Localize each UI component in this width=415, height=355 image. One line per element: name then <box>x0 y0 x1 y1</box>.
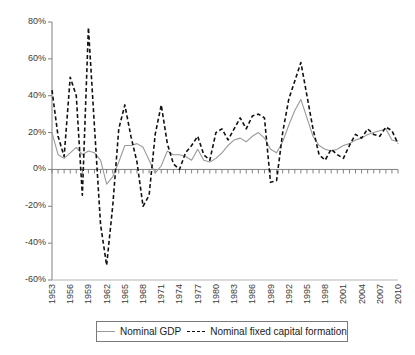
y-axis-tick-label: 40% <box>6 90 46 100</box>
series-layer <box>52 28 398 266</box>
x-axis-tick-label: 2010 <box>393 284 403 304</box>
x-axis-tick-label: 2004 <box>357 284 367 304</box>
y-axis-tick-label: 60% <box>6 53 46 63</box>
series-line-1 <box>52 28 398 266</box>
chart-container: 80%60%40%20%0%-20%-40%-60% 1953195619591… <box>0 0 415 355</box>
y-axis-tick-label: -20% <box>6 200 46 210</box>
y-axis-tick-label: -60% <box>6 274 46 284</box>
x-axis-tick-label: 1986 <box>247 284 257 304</box>
dashed-line-swatch-icon <box>187 328 205 336</box>
legend-item-nominal-gdp: Nominal GDP <box>97 326 181 337</box>
x-axis-tick-label: 1968 <box>138 284 148 304</box>
legend-label-nominal-gdp: Nominal GDP <box>120 326 181 337</box>
y-axis-tick-label: -40% <box>6 237 46 247</box>
chart-legend: Nominal GDP Nominal fixed capital format… <box>96 321 348 342</box>
x-axis-tick-label: 1953 <box>47 284 57 304</box>
y-axis-tick-label: 80% <box>6 16 46 26</box>
x-axis-tick-label: 2007 <box>375 284 385 304</box>
x-axis-tick-label: 1962 <box>102 284 112 304</box>
x-axis-tick-label: 1956 <box>65 284 75 304</box>
x-axis-tick-label: 1974 <box>174 284 184 304</box>
x-axis-tick-label: 1989 <box>266 284 276 304</box>
x-axis-tick-label: 1983 <box>229 284 239 304</box>
x-axis-tick-label: 1965 <box>120 284 130 304</box>
x-axis-tick-label: 1977 <box>193 284 203 304</box>
x-axis-tick-label: 1992 <box>284 284 294 304</box>
x-axis-tick-label: 1959 <box>83 284 93 304</box>
series-line-0 <box>52 99 398 184</box>
x-axis-tick-label: 1971 <box>156 284 166 304</box>
solid-line-swatch-icon <box>97 328 115 336</box>
legend-item-fixed-capital-formation: Nominal fixed capital formation <box>187 326 347 337</box>
x-axis-tick-label: 1998 <box>320 284 330 304</box>
x-axis-tick-label: 2001 <box>338 284 348 304</box>
legend-label-fixed-capital-formation: Nominal fixed capital formation <box>210 326 347 337</box>
x-axis-tick-label: 1980 <box>211 284 221 304</box>
y-axis-tick-label: 20% <box>6 127 46 137</box>
y-axis-tick-label: 0% <box>6 163 46 173</box>
x-axis-tick-label: 1995 <box>302 284 312 304</box>
chart-plot-area <box>0 0 415 355</box>
